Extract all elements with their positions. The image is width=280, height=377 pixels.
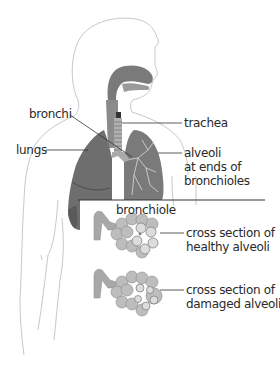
respiratory-diagram: bronchi lungs trachea alveoli at ends of… bbox=[0, 0, 280, 377]
label-damaged-line1: cross section of bbox=[186, 283, 275, 297]
label-trachea: trachea bbox=[184, 116, 228, 130]
label-damaged-line2: damaged alveoli bbox=[186, 297, 280, 311]
label-alveoli-line1: alveoli bbox=[184, 146, 221, 160]
damaged-alveoli-illustration bbox=[94, 269, 162, 316]
label-bronchiole: bronchiole bbox=[116, 203, 176, 217]
label-lungs: lungs bbox=[16, 143, 47, 157]
label-healthy-line2: healthy alveoli bbox=[186, 240, 270, 254]
label-bronchi: bronchi bbox=[29, 107, 72, 121]
label-alveoli-line2: at ends of bbox=[184, 160, 241, 174]
label-healthy-line1: cross section of bbox=[186, 226, 275, 240]
label-alveoli-line3: bronchioles bbox=[184, 174, 250, 188]
healthy-alveoli-illustration bbox=[94, 211, 158, 258]
